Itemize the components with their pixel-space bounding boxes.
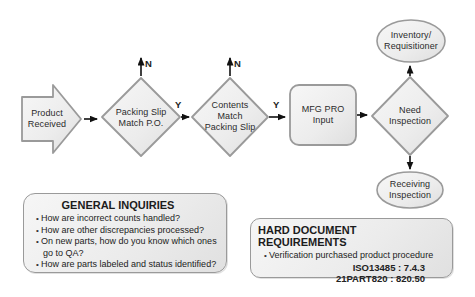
hard-document-requirements-box: HARD DOCUMENT REQUIREMENTS Verification …	[250, 218, 453, 278]
packing-yes-label: Y	[175, 99, 181, 110]
label-line: Receiving	[390, 179, 430, 190]
packing-no-label: N	[145, 58, 152, 69]
contents-label: Contents Match Packing Slip	[190, 100, 270, 133]
need-inspection-label: Need Inspection	[370, 105, 450, 127]
general-inquiries-title: GENERAL INQUIRIES	[30, 199, 206, 211]
label-line: Inspection	[389, 116, 431, 127]
receiving-label: Receiving Inspection	[370, 179, 450, 201]
packing-slip-label: Packing Slip Match P.O.	[96, 107, 186, 129]
mfg-pro-label: MFG PRO Input	[288, 104, 358, 126]
label-line: Packing Slip	[116, 107, 167, 118]
label-line: Need	[399, 105, 421, 116]
general-inquiries-box: GENERAL INQUIRIES How are incorrect coun…	[23, 193, 227, 273]
contents-yes-label: Y	[273, 99, 279, 110]
label-line: Match	[217, 111, 242, 122]
flowchart-canvas: Product Received Packing Slip Match P.O.…	[0, 0, 475, 297]
label-line: Packing Slip	[205, 122, 256, 133]
inquiry-item: On new parts, how do you know which ones…	[30, 236, 220, 259]
label-line: Contents	[212, 100, 249, 111]
label-line: Inventory/	[391, 30, 432, 41]
label-line: Inspection	[389, 190, 431, 201]
label-line: Input	[313, 115, 334, 126]
hard-document-title: HARD DOCUMENT REQUIREMENTS	[258, 224, 445, 248]
hard-document-item: Verification purchased product procedure	[258, 250, 445, 262]
product-received-label: Product Received	[12, 108, 82, 130]
inquiry-item: How are parts labeled and status identif…	[30, 259, 220, 271]
iso-reference: ISO13485 : 7.4.3	[258, 262, 445, 274]
label-line: Requisitioner	[384, 41, 438, 52]
inquiry-item: How are other discrepancies processed?	[30, 225, 220, 237]
label-line: MFG PRO	[302, 104, 345, 115]
part820-reference: 21PART820 : 820.50	[258, 273, 445, 285]
contents-no-label: N	[234, 58, 241, 69]
inquiry-item: How are incorrect counts handled?	[30, 213, 220, 225]
inventory-label: Inventory/ Requisitioner	[371, 30, 451, 52]
label-line: Received	[28, 119, 66, 130]
label-line: Match P.O.	[119, 118, 164, 129]
label-line: Product	[31, 108, 63, 119]
